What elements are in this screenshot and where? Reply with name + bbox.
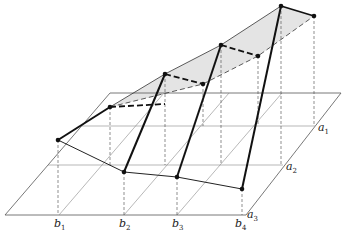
grid-rows [48,126,315,165]
shaded-surface [58,6,314,140]
label-b4: b4 [235,217,247,232]
diagram-canvas: a1 a2 a3 b1 b2 b3 b4 [0,0,345,232]
label-a1: a1 [318,121,329,136]
label-b2: b2 [119,217,131,232]
shaded-surface-lower [58,74,203,140]
lower-path [58,140,242,189]
label-b1: b1 [54,217,66,232]
base-plane [5,93,341,215]
label-a2: a2 [286,160,297,175]
label-b3: b3 [172,217,184,232]
label-a3: a3 [247,208,258,223]
